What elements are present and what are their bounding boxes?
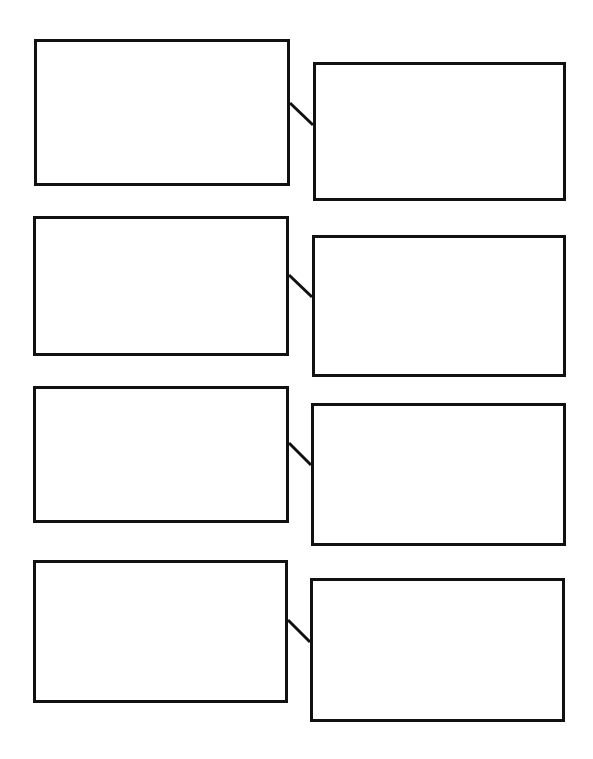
right-box[interactable]	[313, 62, 566, 201]
left-box[interactable]	[34, 39, 290, 186]
left-box[interactable]	[33, 386, 289, 523]
left-box[interactable]	[33, 560, 288, 703]
connector-line	[289, 443, 311, 465]
connector-line	[290, 103, 313, 125]
connector-line	[288, 620, 310, 642]
right-box-text[interactable]	[313, 581, 562, 719]
connector-line	[289, 275, 312, 297]
left-box[interactable]	[33, 216, 289, 356]
right-box[interactable]	[310, 578, 565, 722]
right-box[interactable]	[311, 403, 566, 546]
right-box-text[interactable]	[315, 238, 563, 374]
right-box[interactable]	[312, 235, 566, 377]
worksheet-page	[0, 0, 593, 759]
left-box-text[interactable]	[36, 389, 286, 520]
left-box-text[interactable]	[36, 563, 285, 700]
right-box-text[interactable]	[314, 406, 563, 543]
right-box-text[interactable]	[316, 65, 563, 198]
left-box-text[interactable]	[36, 219, 286, 353]
left-box-text[interactable]	[37, 42, 287, 183]
